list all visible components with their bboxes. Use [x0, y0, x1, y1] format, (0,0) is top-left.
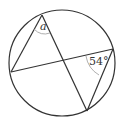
angle-c-label: 54° — [89, 55, 109, 68]
circle-diagram: a 54° — [0, 0, 125, 126]
angle-a-label: a — [40, 20, 47, 33]
